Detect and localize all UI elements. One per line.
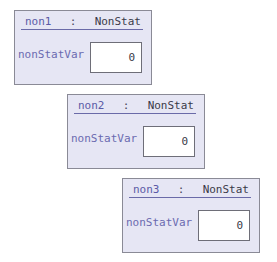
field-label: nonStatVar <box>126 216 192 229</box>
type-separator: : <box>123 99 130 113</box>
class-name: NonStat <box>148 99 194 113</box>
field-label: nonStatVar <box>18 48 84 61</box>
object-box-non3: non3 : NonStat nonStatVar 0 <box>122 178 260 253</box>
object-title: non1 : NonStat <box>21 15 143 30</box>
field-value-box: 0 <box>198 210 250 241</box>
object-title: non3 : NonStat <box>129 183 251 198</box>
type-separator: : <box>70 15 77 29</box>
field-value-box: 0 <box>90 42 142 73</box>
class-name: NonStat <box>203 183 249 197</box>
field-value-box: 0 <box>143 126 195 157</box>
field-label: nonStatVar <box>71 132 137 145</box>
object-name: non1 <box>25 15 52 29</box>
object-name: non3 <box>133 183 160 197</box>
class-name: NonStat <box>95 15 141 29</box>
object-title: non2 : NonStat <box>74 99 196 114</box>
object-box-non1: non1 : NonStat nonStatVar 0 <box>14 10 152 85</box>
object-box-non2: non2 : NonStat nonStatVar 0 <box>67 94 205 169</box>
object-name: non2 <box>78 99 105 113</box>
type-separator: : <box>178 183 185 197</box>
